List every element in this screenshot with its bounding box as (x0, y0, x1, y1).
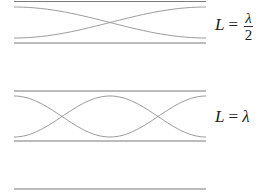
panel2-wave-a (14, 96, 206, 137)
label-full-wavelength: L = λ (215, 107, 250, 127)
label-denominator: 2 (244, 27, 253, 42)
label-fraction: λ 2 (244, 11, 253, 42)
panel1-wave-lower (14, 7, 206, 38)
label-var: L (215, 107, 224, 126)
panel2-wave-b (14, 96, 206, 137)
label-equals: = (228, 107, 238, 126)
label-equals: = (228, 15, 238, 34)
label-half-wavelength: L = λ 2 (215, 11, 253, 42)
label-var: L (215, 15, 224, 34)
label-numerator: λ (244, 11, 253, 27)
label-value: λ (242, 107, 249, 126)
